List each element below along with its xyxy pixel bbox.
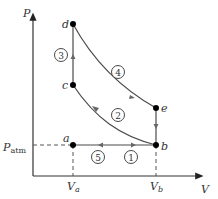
process-3-number: 3 — [58, 51, 64, 61]
axes — [33, 16, 200, 176]
point-e-label: e — [161, 102, 168, 115]
point-c-label: c — [62, 79, 68, 92]
point-b-label: b — [161, 140, 168, 153]
point-d-label: d — [62, 18, 69, 31]
process-labels — [55, 49, 138, 164]
arrow-right-icon — [131, 143, 136, 148]
y-axis-label: P — [22, 7, 31, 20]
point-a — [70, 142, 76, 148]
arrow-down-icon — [154, 124, 159, 129]
process-2-number: 2 — [115, 111, 121, 121]
arrow-left-icon — [98, 143, 103, 148]
point-e — [153, 105, 159, 111]
point-b — [153, 142, 159, 148]
process-5-number: 5 — [95, 153, 101, 163]
process-paths — [73, 24, 156, 145]
point-c — [70, 82, 76, 88]
point-d — [70, 21, 76, 27]
patm-label: Patm — [2, 141, 26, 155]
point-a-label: a — [63, 132, 70, 145]
arrow-up-icon — [71, 54, 76, 59]
pv-diagram: P V Patm Va Vb — [0, 0, 218, 199]
arrow-down-right-icon — [129, 95, 135, 99]
arrow-up-left-icon — [92, 106, 99, 112]
x-axis-label: V — [201, 183, 210, 196]
vb-label: Vb — [150, 180, 163, 194]
process-1-number: 1 — [128, 153, 134, 163]
va-label: Va — [67, 180, 80, 194]
process-4-number: 4 — [115, 68, 121, 78]
